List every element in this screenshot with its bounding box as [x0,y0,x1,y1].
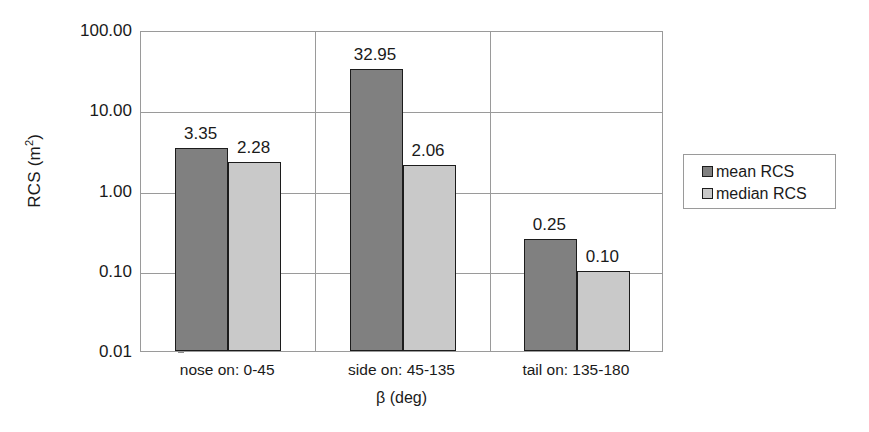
y-axis-title-tail: ) [25,134,44,140]
y-axis-tick-labels: 100.0010.001.000.100.01 [44,0,132,432]
y-axis-tick-label: 0.01 [46,343,132,360]
x-axis-title: β (deg) [140,389,663,407]
y-axis-tick-label: 10.00 [46,102,132,119]
bar-median-rcs[interactable] [577,271,630,351]
plot-area [140,31,663,352]
x-axis-category-label: tail on: 135-180 [489,361,663,379]
bar-value-label: 2.06 [390,142,467,159]
legend-item-median-rcs[interactable]: median RCS [702,183,835,204]
y-axis-title: RCS (m2) [23,91,45,251]
legend-swatch-median-rcs [702,188,713,199]
y-axis-title-base: RCS (m [25,146,44,208]
legend-label-median-rcs: median RCS [716,186,807,202]
gridline-vertical [490,32,491,351]
bar-value-label: 32.95 [337,46,414,63]
legend-swatch-mean-rcs [702,166,713,177]
x-axis-category-label: nose on: 0-45 [140,361,314,379]
y-axis-tick-mark [178,352,184,353]
chart-legend: mean RCS median RCS [683,154,836,209]
rcs-bar-chart: RCS (m2) 100.0010.001.000.100.01 nose on… [0,0,869,432]
bar-value-label: 0.10 [564,248,641,265]
y-axis-tick-label: 100.00 [46,22,132,39]
y-axis-tick-label: 1.00 [46,183,132,200]
bar-mean-rcs[interactable] [350,69,403,351]
y-axis-title-exponent: 2 [23,140,35,146]
bar-median-rcs[interactable] [403,165,456,351]
legend-label-mean-rcs: mean RCS [716,164,794,180]
x-axis-category-label: side on: 45-135 [314,361,488,379]
gridline-vertical [315,32,316,351]
y-axis-tick-label: 0.10 [46,263,132,280]
bar-median-rcs[interactable] [228,162,281,351]
legend-item-mean-rcs[interactable]: mean RCS [702,161,835,182]
bar-value-label: 2.28 [215,139,292,156]
bar-mean-rcs[interactable] [175,148,228,351]
bar-value-label: 0.25 [511,216,588,233]
